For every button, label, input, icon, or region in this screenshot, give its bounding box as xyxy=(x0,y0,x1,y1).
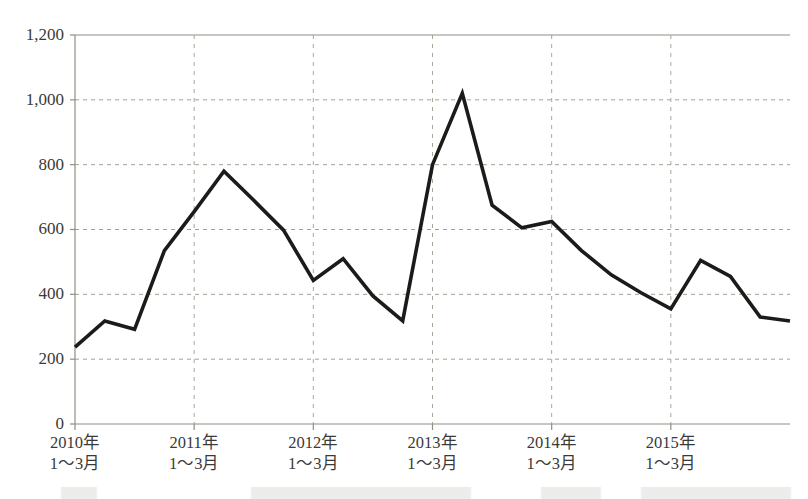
y-tick-label-0: 0 xyxy=(56,414,65,433)
chart-container: 02004006008001,0001,200 2010年1〜3月2011年1〜… xyxy=(0,0,808,499)
y-tick-label-400: 400 xyxy=(39,284,65,303)
x-tick-labels: 2010年1〜3月2011年1〜3月2012年1〜3月2013年1〜3月2014… xyxy=(50,433,696,473)
series-line-件数 xyxy=(75,93,790,347)
y-tick-label-200: 200 xyxy=(39,349,65,368)
x-tick-label-3: 2013年1〜3月 xyxy=(407,433,458,473)
x-tick-label-1: 2011年1〜3月 xyxy=(169,433,220,473)
y-tick-labels: 02004006008001,0001,200 xyxy=(26,25,64,433)
data-series-line xyxy=(75,93,790,347)
y-tick-label-800: 800 xyxy=(39,155,65,174)
x-tick-label-4: 2014年1〜3月 xyxy=(526,433,577,473)
x-tick-label-0: 2010年1〜3月 xyxy=(50,433,101,473)
y-tick-marks xyxy=(70,35,75,424)
line-chart: 02004006008001,0001,200 2010年1〜3月2011年1〜… xyxy=(0,0,808,499)
y-tick-label-600: 600 xyxy=(39,219,65,238)
x-tick-marks xyxy=(75,424,671,430)
page-bottom-artifact xyxy=(0,487,808,499)
grid-lines-vertical xyxy=(194,35,671,424)
y-tick-label-1000: 1,000 xyxy=(26,90,64,109)
x-tick-label-5: 2015年1〜3月 xyxy=(646,433,697,473)
y-tick-label-1200: 1,200 xyxy=(26,25,64,44)
x-tick-label-2: 2012年1〜3月 xyxy=(288,433,339,473)
